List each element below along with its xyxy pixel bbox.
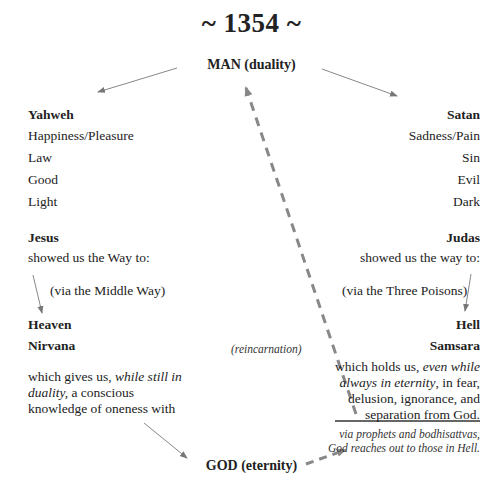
right-attr: Dark xyxy=(453,194,480,210)
right-guide-text: showed us the way to: xyxy=(360,250,480,266)
right-attr: Sin xyxy=(462,150,480,166)
left-attr: Light xyxy=(28,194,57,210)
right-paragraph: which holds us, even while always in ete… xyxy=(330,359,480,423)
left-heading-yahweh: Yahweh xyxy=(28,107,74,123)
label-reincarnation: (reincarnation) xyxy=(231,342,301,356)
left-attr: Happiness/Pleasure xyxy=(28,128,134,144)
page-title: ~ 1354 ~ xyxy=(0,8,503,39)
arrow-nirvana-to-god xyxy=(144,423,187,458)
right-guide-judas: Judas xyxy=(446,230,480,246)
right-dest-hell: Hell xyxy=(456,317,480,333)
left-dest-heaven: Heaven xyxy=(28,317,72,333)
node-man: MAN (duality) xyxy=(0,57,503,73)
left-attr: Good xyxy=(28,172,58,188)
arrow-man-to-satan xyxy=(322,69,397,96)
left-dest-nirvana: Nirvana xyxy=(28,338,75,354)
left-via: (via the Middle Way) xyxy=(50,283,165,299)
right-heading-satan: Satan xyxy=(447,107,480,123)
left-paragraph: which gives us, while still in duality, … xyxy=(28,369,188,417)
right-attr: Sadness/Pain xyxy=(409,128,480,144)
right-footnote: via prophets and bodhisattvas, God reach… xyxy=(320,427,480,455)
left-guide-jesus: Jesus xyxy=(28,230,59,246)
node-god: GOD (eternity) xyxy=(0,458,503,474)
right-dest-samsara: Samsara xyxy=(430,338,480,354)
right-attr: Evil xyxy=(458,172,481,188)
left-attr: Law xyxy=(28,150,52,166)
right-via: (via the Three Poisons) xyxy=(342,283,467,299)
arrow-jesus-to-heaven xyxy=(33,275,42,313)
left-para-pre: which gives us, xyxy=(28,369,115,384)
left-guide-text: showed us the Way to: xyxy=(28,250,150,266)
right-para-pre: which holds us, xyxy=(335,359,423,374)
